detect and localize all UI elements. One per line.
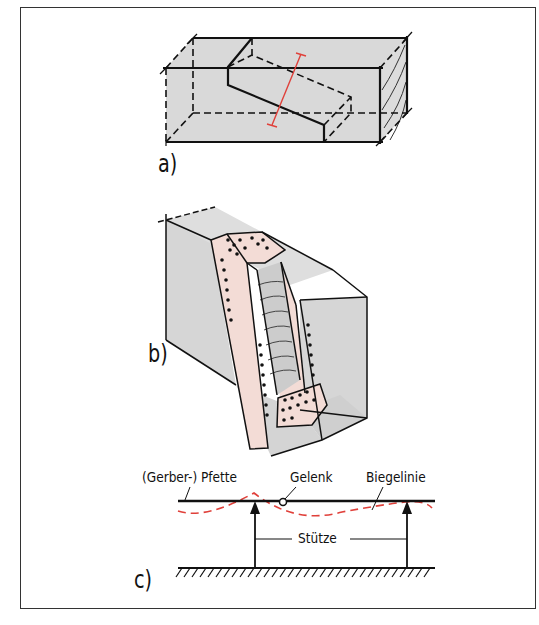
panel-b-beam — [158, 207, 367, 456]
panel-label-b: b) — [148, 340, 168, 368]
panel-label-a: a) — [158, 150, 177, 178]
label-biegelinie: Biegelinie — [366, 469, 426, 485]
label-gelenk: Gelenk — [290, 469, 332, 485]
panel-a-beam — [160, 32, 412, 146]
label-pfette: (Gerber-) Pfette — [142, 469, 237, 485]
diagram-canvas — [0, 0, 539, 625]
label-stuetze: Stütze — [298, 530, 337, 546]
panel-label-c: c) — [134, 566, 152, 594]
